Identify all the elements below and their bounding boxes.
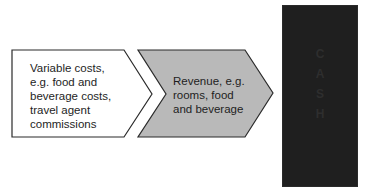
cash-letter: H xyxy=(283,104,357,124)
cash-box: C A S H xyxy=(282,5,358,187)
revenue-label: Revenue, e.g. rooms, food and beverage xyxy=(173,74,268,116)
cash-letter: C xyxy=(283,44,357,64)
cash-letter: A xyxy=(283,64,357,84)
cash-label: C A S H xyxy=(283,44,357,124)
cash-letter: S xyxy=(283,84,357,104)
variable-costs-label: Variable costs, e.g. food and beverage c… xyxy=(30,61,140,131)
